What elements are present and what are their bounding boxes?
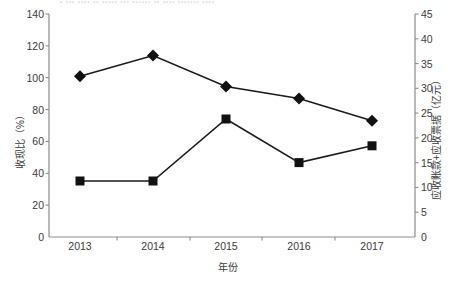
plot-area <box>0 0 455 282</box>
data-point-2014-shouxianbi <box>147 50 159 62</box>
data-point-2017-shouxianbi <box>366 115 378 127</box>
data-point-2014-receivables <box>149 177 158 186</box>
data-point-2017-receivables <box>368 141 377 150</box>
data-point-2016-shouxianbi <box>293 93 305 105</box>
series-markers-receivables <box>76 115 377 186</box>
series-line-receivables <box>80 119 372 181</box>
data-point-2013-receivables <box>76 177 85 186</box>
chart-container: ▪ ▪▪▪ ▪▪▪▪ ▪▪ ▪▪▪▪▪ ▪▪▪ ▪▪▪▪▪▪ ▪▪ ▪▪▪▪ ▪… <box>0 0 455 282</box>
data-point-2016-receivables <box>295 158 304 167</box>
axis-lines <box>49 14 415 237</box>
data-point-2015-shouxianbi <box>220 81 232 93</box>
data-point-2013-shouxianbi <box>74 70 86 82</box>
data-point-2015-receivables <box>222 115 231 124</box>
